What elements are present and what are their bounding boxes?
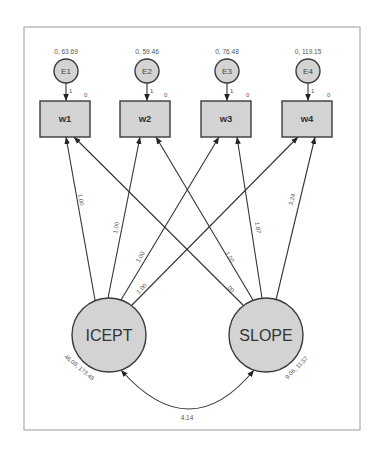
e4-params: 0, 119.15: [295, 48, 322, 55]
e3-params: 0, 76.48: [215, 48, 239, 55]
e1-params: 0, 63.69: [54, 48, 78, 55]
e1-label: E1: [61, 67, 71, 76]
covariance-value: 4.14: [181, 414, 194, 421]
w2-label: w2: [138, 113, 152, 124]
w3-label: w3: [219, 113, 233, 124]
diagram-frame: [24, 27, 360, 430]
e2-label: E2: [142, 67, 152, 76]
w4-label: w4: [300, 113, 314, 124]
path-diagram: 4.14 0, 63.69 E1 1 0, 59.46 E2 1 0, 76.4…: [0, 0, 381, 453]
slope-label: SLOPE: [239, 327, 292, 344]
w1-label: w1: [58, 113, 72, 124]
icept-label: ICEPT: [85, 327, 132, 344]
e2-params: 0, 59.46: [135, 48, 159, 55]
e4-label: E4: [303, 67, 313, 76]
e3-label: E3: [222, 67, 232, 76]
